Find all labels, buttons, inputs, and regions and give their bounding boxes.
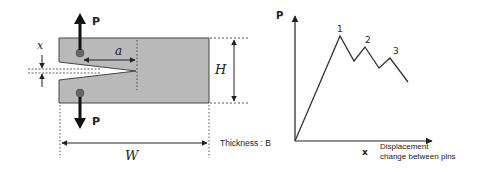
graph-axes xyxy=(295,16,432,141)
peak-label-1: 1 xyxy=(337,25,343,34)
height-label: H xyxy=(215,63,226,76)
graph-x-caption-line1: Displacement xyxy=(380,143,428,151)
upper-pin xyxy=(76,49,84,57)
crack-length-label: a xyxy=(115,45,122,57)
peak-label-3: 3 xyxy=(393,47,399,56)
graph-x-axis-label: x xyxy=(362,148,368,157)
thickness-label: Thickness : B xyxy=(220,139,271,148)
load-bottom-label: P xyxy=(92,116,100,127)
load-top-label: P xyxy=(92,16,100,27)
crack-opening-dashes xyxy=(28,69,100,73)
peak-label-2: 2 xyxy=(365,36,371,45)
graph-x-caption-line2: change between pins xyxy=(380,153,456,161)
width-label: W xyxy=(125,149,138,162)
graph-y-axis-label: P xyxy=(276,11,283,21)
lower-pin xyxy=(76,89,84,97)
opening-label: x xyxy=(37,40,43,51)
load-displacement-curve xyxy=(295,36,408,141)
